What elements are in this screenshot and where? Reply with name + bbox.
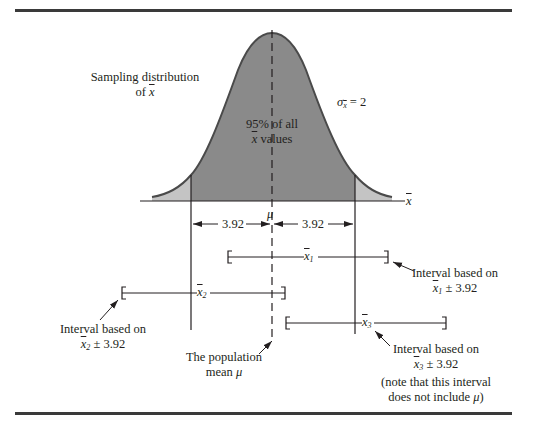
left-tail-area [152,175,191,201]
central-area-line1: 95% of all [232,117,312,132]
central-area-label: 95% of all x values [232,117,312,147]
top-rule [15,9,512,12]
standard-error-label: σx = 2 [337,95,366,113]
interval-3-caption: Interval based on x3 ± 3.92 (note that t… [376,342,496,405]
mu-label: μ [267,207,273,222]
sampling-distribution-line2: of x [80,85,210,100]
interval-1-caption-line2: x1 ± 3.92 [400,281,510,299]
margin-right-label: 3.92 [300,217,326,232]
interval-1-caption: Interval based on x1 ± 3.92 [400,266,510,299]
interval-3-caption-line3: (note that this interval [376,375,496,390]
central-area-line2: x values [232,132,312,147]
interval-2-caption-line1: Interval based on [48,322,158,337]
sampling-distribution-label: Sampling distribution of x [80,70,210,100]
x-axis-label: x [406,194,412,209]
interval-2-mean-label: x2 [197,285,207,303]
population-mean-caption-line2: mean μ [182,365,266,380]
sampling-distribution-line1: Sampling distribution [80,70,210,85]
interval-1-caption-line1: Interval based on [400,266,510,281]
interval-2-caption-line2: x2 ± 3.92 [48,337,158,355]
population-mean-caption: The population mean μ [182,350,266,380]
interval-1-mean-label: x1 [304,249,314,267]
sampling-distribution-figure: Sampling distribution of x 95% of all x … [0,0,539,429]
interval-3-caption-line4: does not include μ) [376,390,496,405]
interval-3-caption-line2: x3 ± 3.92 [376,357,496,375]
interval-2-caption: Interval based on x2 ± 3.92 [48,322,158,355]
right-tail-area [355,175,392,201]
interval-3-caption-line1: Interval based on [376,342,496,357]
interval-3-mean-label: x3 [362,315,372,333]
interval-2-callout-arrow [100,300,118,320]
bottom-rule [15,412,512,415]
margin-left-label: 3.92 [220,217,246,232]
population-mean-caption-line1: The population [182,350,266,365]
